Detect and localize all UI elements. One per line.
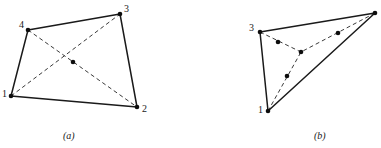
dashed-edge-3-centroid — [260, 32, 301, 52]
solid-edge-3-2 — [120, 14, 137, 107]
solid-lines-layer — [11, 13, 375, 111]
solid-edge-1-4 — [11, 30, 28, 96]
vertex-dot-a-3 — [118, 12, 123, 17]
vertex-dot-b-1 — [266, 109, 271, 114]
vertex-dot-a-2 — [135, 105, 140, 110]
solid-edge-2-1 — [11, 96, 137, 107]
vertex-dot-b-2 — [373, 11, 378, 16]
interior-dot-b-centroid — [299, 50, 304, 55]
dashed-edge-4-2 — [28, 30, 137, 107]
vertex-label-a-4: 4 — [19, 20, 24, 30]
vertex-dot-a-4 — [26, 28, 31, 33]
interior-dot-a-c — [71, 60, 76, 65]
vertex-dot-a-1 — [9, 94, 14, 99]
figure-pair: 123413 (a)(b) — [0, 0, 381, 148]
vertex-label-b-3: 3 — [249, 23, 254, 33]
interior-dot-b-m1 — [276, 40, 281, 45]
diagram-canvas — [0, 0, 381, 148]
vertex-label-b-1: 1 — [258, 105, 263, 115]
vertex-label-a-3: 3 — [124, 4, 129, 14]
vertex-dot-b-3 — [258, 30, 263, 35]
vertex-label-a-1: 1 — [2, 89, 7, 99]
vertex-label-a-2: 2 — [142, 104, 147, 114]
interior-dot-b-m2 — [336, 31, 341, 36]
dashed-edge-1-centroid — [268, 52, 301, 111]
solid-edge-4-3 — [28, 14, 120, 30]
interior-dot-b-m3 — [285, 74, 290, 79]
figure-caption-b: (b) — [314, 131, 326, 141]
solid-edge-1-3 — [260, 32, 268, 111]
figure-caption-a: (a) — [63, 131, 75, 141]
